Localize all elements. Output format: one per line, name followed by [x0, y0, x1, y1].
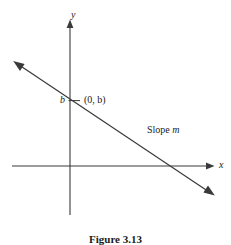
slope-label-text: Slope: [147, 124, 172, 135]
y-axis-arrowhead: [67, 20, 74, 29]
y-axis-label: y: [71, 10, 75, 20]
slope-label-symbol: m: [172, 124, 179, 135]
graph-line: [20, 65, 209, 191]
figure-caption: Figure 3.13: [0, 233, 231, 245]
x-axis-label: x: [219, 160, 223, 170]
graph-line-arrowhead-upper-left: [13, 61, 24, 71]
y-intercept-point-label: (0, b): [84, 95, 106, 105]
slope-label: Slope m: [147, 125, 180, 135]
graph-line-arrowhead-lower-right: [203, 186, 214, 196]
y-intercept-label: b: [60, 95, 65, 105]
x-axis-arrowhead: [206, 163, 215, 170]
